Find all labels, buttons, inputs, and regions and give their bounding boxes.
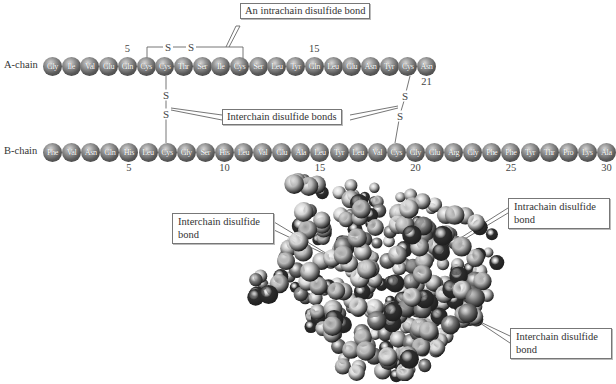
model-interchain-callout-left: Interchain disulfide bond (172, 213, 274, 244)
model-interchain-callout-bottom: Interchain disulfide bond (510, 328, 612, 359)
model-intrachain-callout-right: Intrachain disulfide bond (508, 198, 610, 229)
